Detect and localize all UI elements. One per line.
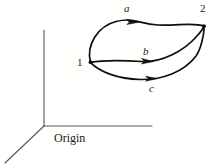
state-2-label: 2 xyxy=(200,3,206,14)
path-a-label: a xyxy=(124,3,130,14)
thermodynamic-path-diagram: a b c 1 2 Origin xyxy=(0,0,221,164)
path-c-label: c xyxy=(149,83,154,94)
origin-label: Origin xyxy=(54,132,85,144)
path-b-label: b xyxy=(143,46,149,57)
state-1-vertex xyxy=(89,60,93,64)
oblique-axis xyxy=(5,126,44,163)
diagram-canvas xyxy=(0,0,221,164)
state-1-label: 1 xyxy=(77,57,83,68)
state-2-vertex xyxy=(202,24,206,28)
